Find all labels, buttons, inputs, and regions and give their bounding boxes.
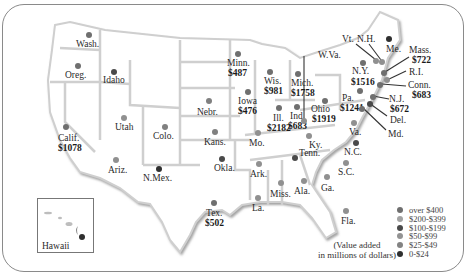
state-dot-mass	[381, 70, 387, 76]
state-value-wis: $981	[264, 86, 283, 96]
state-dot-colo	[162, 124, 168, 130]
state-dot-md	[359, 106, 365, 112]
state-dot-tex	[211, 200, 217, 206]
state-dot-nc	[353, 140, 359, 146]
units-note-line1: (Value added	[292, 240, 422, 250]
state-label-nc: N.C.	[344, 147, 362, 157]
state-dot-utah	[121, 115, 127, 121]
state-label-mo: Mo.	[249, 138, 265, 148]
state-dot-wis	[267, 69, 273, 75]
state-label-nmex: N.Mex.	[143, 173, 172, 183]
state-label-me: Me.	[386, 44, 401, 54]
state-value-calif: $1078	[58, 143, 82, 153]
hawaii-label: Hawaii	[42, 241, 69, 251]
state-dot-fla	[343, 208, 349, 214]
state-label-idaho: Idaho	[103, 75, 125, 85]
state-label-wash: Wash.	[76, 39, 99, 49]
state-label-nebr: Nebr.	[197, 107, 218, 117]
state-dot-me	[386, 36, 392, 42]
state-label-fla: Fla.	[341, 216, 356, 226]
state-dot-kans	[212, 129, 218, 135]
state-label-ga: Ga.	[321, 183, 334, 193]
legend-swatch-icon	[397, 216, 403, 222]
state-dot-ind	[294, 104, 300, 110]
state-dot-nmex	[156, 166, 162, 172]
state-dot-nh	[379, 59, 385, 65]
state-label-va: Va.	[349, 127, 361, 137]
state-dot-calif	[63, 124, 69, 130]
state-label-ariz: Ariz.	[108, 165, 127, 175]
state-dot-del	[367, 101, 373, 107]
state-label-mass: Mass.	[409, 45, 431, 55]
state-label-miss: Miss.	[270, 189, 291, 199]
state-value-conn: $683	[412, 90, 431, 100]
state-dot-wva	[301, 118, 307, 124]
state-dot-ill	[276, 105, 282, 111]
state-label-colo: Colo.	[153, 131, 174, 141]
units-note-line2: in millions of dollars)	[292, 250, 422, 260]
state-label-ohio: Ohio	[311, 104, 330, 114]
state-label-wva: W.Va.	[318, 50, 341, 60]
state-value-mich: $1758	[291, 88, 315, 98]
state-dot-sc	[343, 160, 349, 166]
state-label-la: La.	[252, 203, 264, 213]
state-dot-va	[351, 120, 357, 126]
state-label-oreg: Oreg.	[65, 70, 86, 80]
state-dot-ri	[384, 77, 390, 83]
state-label-iowa: Iowa	[238, 96, 257, 106]
state-dot-ark	[256, 161, 262, 167]
state-dot-nebr	[206, 98, 212, 104]
state-dot-iowa	[245, 89, 251, 95]
state-label-calif: Calif.	[58, 133, 79, 143]
state-dot-conn	[377, 82, 383, 88]
state-dot-oreg	[75, 63, 81, 69]
state-label-minn: Minn.	[227, 58, 250, 68]
state-label-vt: Vt.	[342, 34, 354, 44]
units-note: (Value added in millions of dollars)	[292, 240, 422, 260]
state-label-nh: N.H.	[357, 34, 375, 44]
state-value-ohio: $1919	[312, 114, 336, 124]
state-label-ri: R.I.	[409, 67, 423, 77]
state-label-kans: Kans.	[204, 137, 226, 147]
state-dot-miss	[278, 180, 284, 186]
state-value-mass: $722	[412, 55, 431, 65]
legend-swatch-icon	[397, 233, 403, 239]
state-dot-wash	[86, 32, 92, 38]
state-label-ny: N.Y.	[352, 66, 369, 76]
state-dot-mo	[255, 130, 261, 136]
state-label-mich: Mich.	[291, 78, 313, 88]
legend-swatch-icon	[397, 225, 403, 231]
state-label-okla: Okla.	[214, 163, 235, 173]
hawaii-dot	[79, 234, 85, 240]
state-value-nj: $672	[390, 104, 409, 114]
state-label-utah: Utah	[115, 122, 133, 132]
state-value-ny: $1516	[351, 77, 375, 87]
state-label-ark: Ark.	[250, 169, 267, 179]
state-label-ill: Ill.	[273, 113, 284, 123]
state-dot-ariz	[113, 157, 119, 163]
state-label-wis: Wis.	[264, 76, 281, 86]
state-dot-pa	[357, 88, 363, 94]
state-label-tex: Tex.	[206, 208, 222, 218]
state-label-md: Md.	[388, 129, 404, 139]
state-label-tenn: Tenn.	[299, 148, 320, 158]
state-dot-ala	[301, 178, 307, 184]
state-label-ala: Ala.	[294, 186, 310, 196]
state-dot-minn	[235, 51, 241, 57]
state-dot-la	[255, 195, 261, 201]
state-dot-ky	[306, 133, 312, 139]
state-value-iowa: $476	[238, 106, 257, 116]
state-label-pa: Pa.	[342, 93, 354, 103]
state-label-del: Del.	[390, 115, 406, 125]
legend-swatch-icon	[397, 207, 403, 213]
state-dot-okla	[219, 156, 225, 162]
state-label-conn: Conn.	[408, 80, 431, 90]
state-value-minn: $487	[228, 68, 247, 78]
state-dot-ga	[324, 174, 330, 180]
state-dot-mich	[295, 71, 301, 77]
state-dot-tenn	[292, 155, 298, 161]
state-label-nj: N.J.	[389, 94, 404, 104]
state-dot-nj	[370, 94, 376, 100]
state-label-sc: S.C.	[338, 167, 354, 177]
state-value-tex: $502	[205, 218, 224, 228]
